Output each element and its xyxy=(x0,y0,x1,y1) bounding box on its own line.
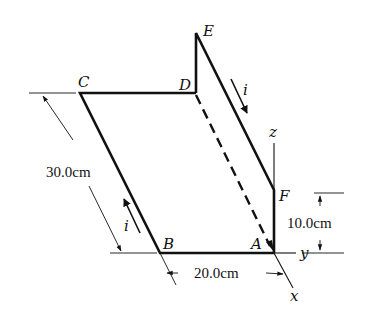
label-point-C: C xyxy=(78,73,90,91)
wire-D-E-F xyxy=(196,33,274,253)
current-loop xyxy=(80,33,274,253)
label-point-D: D xyxy=(178,76,191,94)
label-dimension-10cm: 10.0cm xyxy=(287,215,332,231)
label-axis-y: y xyxy=(299,244,309,262)
label-axis-x: x xyxy=(290,287,299,305)
label-point-B: B xyxy=(162,235,174,253)
label-axis-z: z xyxy=(268,123,277,141)
label-current-BC: i xyxy=(124,217,129,235)
label-current-ED: i xyxy=(243,81,248,99)
label-dimension-30cm: 30.0cm xyxy=(46,164,91,180)
label-dimension-20cm: 20.0cm xyxy=(194,265,239,281)
label-point-E: E xyxy=(202,22,214,40)
dashed-line-AD xyxy=(196,95,270,246)
label-point-A: A xyxy=(249,235,262,253)
wire-A-B-C-D xyxy=(80,93,274,253)
label-point-F: F xyxy=(278,187,290,205)
x-axis xyxy=(274,253,293,288)
current-loop-diagram: C D E F B A z y x i i 30.0cm 20.0cm 10.0… xyxy=(0,0,370,325)
